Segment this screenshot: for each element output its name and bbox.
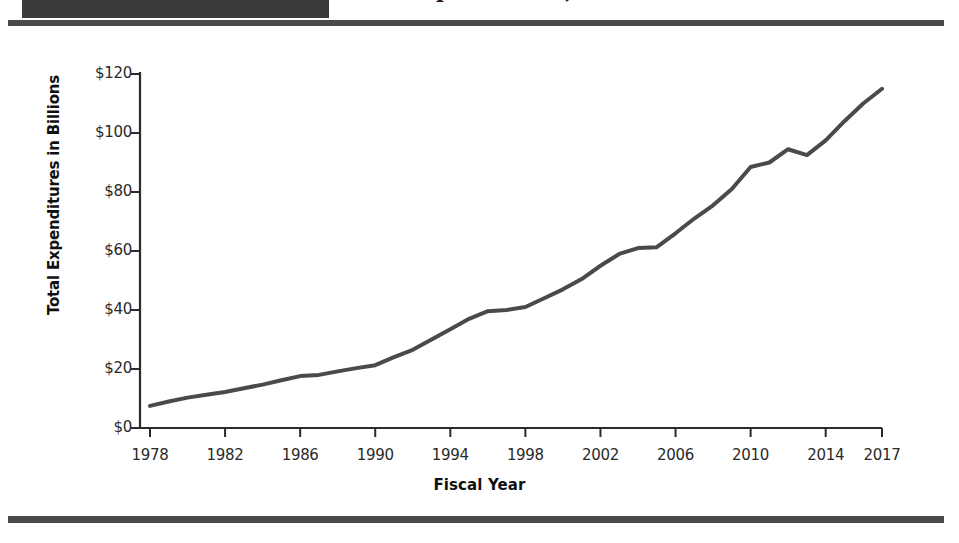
chart-container: Total Expenditures in Billions Fiscal Ye… [0, 26, 959, 514]
chart-page: Total Expenditures, Fiscal Years 1978-20… [0, 0, 959, 543]
bottom-rule [8, 516, 944, 523]
line-plot [0, 26, 959, 514]
expenditures-line-series [150, 89, 882, 406]
axis-lines [140, 72, 882, 428]
header-band [22, 0, 329, 18]
axis-tickmarks [131, 74, 882, 437]
document-title: Total Expenditures, Fiscal Years 1978-20… [340, 0, 900, 4]
